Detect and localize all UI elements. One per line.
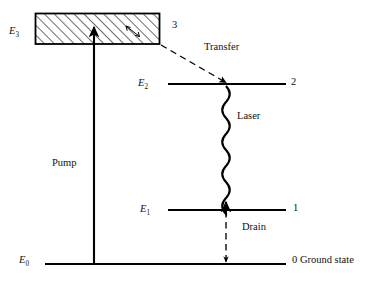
level-number-3: 3 (172, 20, 177, 31)
level-E3-band (36, 14, 160, 45)
level-number-1: 1 (293, 203, 298, 214)
level-label-E1: E1 (140, 204, 150, 217)
transition-label-pump: Pump (52, 158, 77, 169)
level-label-E1-sub: 1 (146, 209, 150, 217)
energy-level-diagram (0, 0, 368, 282)
hatched-rectangle (36, 14, 160, 45)
level-label-E3: E3 (9, 26, 19, 39)
figure-canvas: E3 E2 E1 E0 3 2 1 0 Ground state Transfe… (0, 0, 368, 282)
level-label-E0-sub: 0 (25, 260, 29, 268)
laser-wavy-arrow (222, 86, 230, 214)
level-label-E2: E2 (138, 78, 148, 91)
level-label-E2-sub: 2 (144, 83, 148, 91)
transition-label-laser: Laser (237, 111, 260, 122)
transition-label-drain: Drain (242, 222, 266, 233)
level-label-E0: E0 (19, 255, 29, 268)
level-number-0-ground-state: 0 Ground state (292, 255, 354, 266)
level-label-E3-sub: 3 (15, 31, 19, 39)
level-number-2: 2 (291, 77, 296, 88)
transition-label-transfer: Transfer (204, 42, 239, 53)
